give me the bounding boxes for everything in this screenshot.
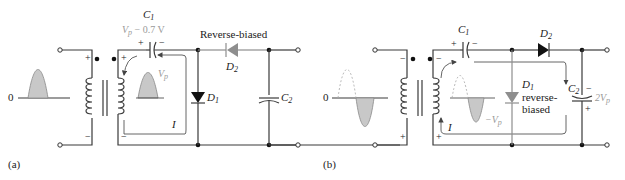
svg-text:biased: biased — [522, 103, 551, 115]
svg-text:+: + — [585, 103, 591, 114]
voltage-doubler-figure: 0 + − + − C1 Vp − 0.7 V + − — [0, 0, 625, 180]
terminal-primary-top-a — [58, 48, 62, 52]
diode-d1-b: D1 reverse- biased — [505, 50, 558, 145]
svg-text:0: 0 — [323, 91, 329, 103]
capacitor-c1-b: C1 + − — [451, 23, 514, 58]
svg-text:I: I — [447, 121, 453, 133]
output-terminal-top-a — [296, 48, 300, 52]
svg-text:C1: C1 — [143, 8, 154, 22]
secondary-coil-a — [118, 78, 124, 114]
svg-text:−Vp: −Vp — [485, 114, 502, 127]
diode-d2-a: D2 Reverse-biased — [198, 28, 268, 74]
svg-text:+: + — [451, 38, 457, 49]
current-label-a: I — [171, 118, 177, 130]
panel-b: 0 − + − + C1 + − −Vp — [323, 23, 610, 171]
svg-text:D1: D1 — [521, 78, 534, 92]
diode-d2-b: D2 — [512, 27, 582, 57]
svg-text:D2: D2 — [225, 60, 238, 74]
svg-text:C1: C1 — [458, 23, 469, 37]
svg-text:−: − — [586, 83, 592, 94]
secondary-coil-b — [433, 78, 439, 114]
svg-text:C2: C2 — [568, 82, 579, 96]
svg-text:−: − — [472, 38, 478, 49]
primary-coil-a — [86, 78, 92, 114]
svg-text:reverse-: reverse- — [522, 91, 558, 103]
svg-text:+: + — [400, 131, 406, 142]
capacitor-c2-b: C2 − + 2Vp — [568, 50, 610, 145]
output-terminal-bottom-a — [296, 143, 300, 147]
svg-text:D1: D1 — [206, 91, 219, 105]
diode-d1-a: D1 — [191, 50, 219, 145]
secondary-waveform-a — [138, 73, 158, 99]
svg-text:+: + — [436, 131, 442, 142]
zero-label-a: 0 — [8, 91, 14, 103]
svg-text:Vp: Vp — [158, 68, 168, 81]
svg-text:−: − — [400, 53, 406, 64]
primary-coil-b — [401, 78, 407, 114]
d2-status-a: Reverse-biased — [200, 28, 268, 40]
svg-text:−: − — [436, 53, 442, 64]
capacitor-c2-a: C2 — [259, 50, 292, 145]
panel-label-a: (a) — [8, 158, 21, 171]
svg-text:Vp − 0.7 V: Vp − 0.7 V — [122, 24, 166, 37]
svg-text:+: + — [138, 37, 144, 48]
input-waveform-a: 0 — [8, 70, 70, 104]
input-waveform-b: 0 — [323, 70, 388, 127]
primary-bottom-polarity-a: − — [85, 131, 91, 142]
svg-text:−: − — [159, 37, 165, 48]
svg-text:D2: D2 — [539, 27, 552, 41]
panel-a: 0 + − + − C1 Vp − 0.7 V + − — [8, 8, 400, 171]
svg-text:2Vp: 2Vp — [595, 92, 610, 105]
primary-top-polarity-a: + — [85, 52, 91, 63]
panel-label-b: (b) — [323, 158, 336, 171]
svg-text:C2: C2 — [281, 91, 292, 105]
secondary-top-polarity-a: + — [121, 52, 127, 63]
terminal-primary-bottom-a — [58, 143, 62, 147]
